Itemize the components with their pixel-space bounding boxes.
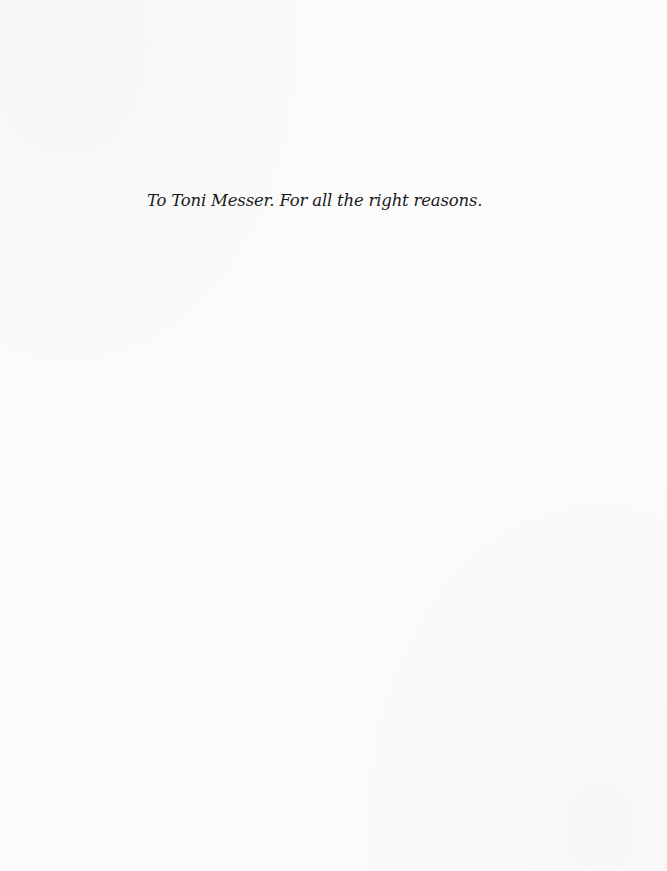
dedication-text: To Toni Messer. For all the right reason… — [147, 191, 482, 211]
book-page: To Toni Messer. For all the right reason… — [0, 0, 667, 871]
